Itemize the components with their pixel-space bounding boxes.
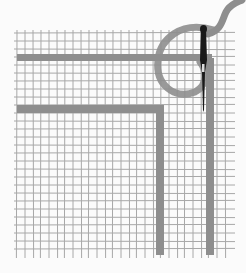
thread-tail	[208, 0, 242, 34]
needle-grid-illustration	[0, 0, 246, 273]
